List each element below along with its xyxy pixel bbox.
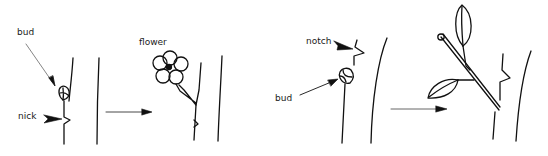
pruning-diagram: bud nick flower notch bud [0, 0, 548, 156]
label-nick: nick [18, 112, 36, 121]
panel2-before [339, 38, 387, 143]
label-bud-2: bud [275, 94, 292, 103]
panel2-after [428, 5, 531, 141]
panel1-before [59, 58, 99, 144]
label-bud: bud [17, 28, 34, 37]
leaf-icon [456, 5, 471, 46]
label-notch: notch [306, 37, 331, 46]
diagram-canvas [0, 0, 548, 156]
flower-icon [153, 51, 188, 84]
panel1-after [153, 51, 222, 141]
label-flower: flower [139, 38, 167, 47]
